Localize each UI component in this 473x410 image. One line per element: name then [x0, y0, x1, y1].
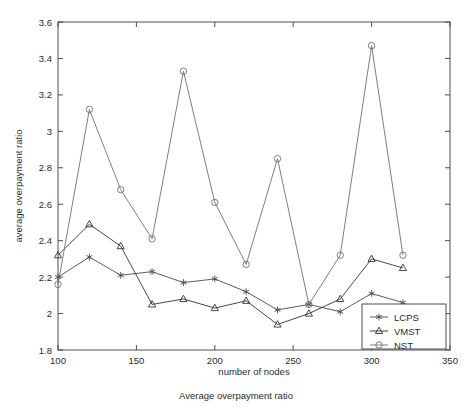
x-tick-label: 150 — [128, 355, 144, 366]
x-axis-title: number of nodes — [218, 366, 290, 377]
legend-label-nst: NST — [394, 340, 413, 351]
y-tick-label: 2.2 — [39, 272, 52, 283]
legend-label-vmst: VMST — [394, 326, 421, 337]
x-tick-label: 300 — [364, 355, 380, 366]
legend-label-lcps: LCPS — [394, 312, 419, 323]
y-tick-label: 2.8 — [39, 162, 52, 173]
y-tick-label: 3.6 — [39, 17, 52, 28]
x-tick-label: 200 — [207, 355, 223, 366]
y-tick-label: 2.6 — [39, 199, 52, 210]
y-tick-label: 1.8 — [39, 345, 52, 356]
x-tick-label: 250 — [285, 355, 301, 366]
y-tick-label: 3.4 — [39, 53, 52, 64]
x-tick-label: 350 — [442, 355, 458, 366]
y-tick-label: 3 — [47, 126, 52, 137]
legend[interactable]: LCPSVMSTNST — [362, 304, 446, 351]
y-tick-label: 3.2 — [39, 89, 52, 100]
figure-caption: Average overpayment ratio — [179, 390, 293, 401]
y-axis-title: average overpayment ratio — [13, 129, 24, 242]
y-tick-label: 2.4 — [39, 235, 52, 246]
legend-entries[interactable]: LCPSVMSTNST — [370, 312, 421, 351]
x-tick-label: 100 — [50, 355, 66, 366]
chart-figure: 100150200250300350 1.822.22.42.62.833.23… — [0, 0, 473, 410]
y-tick-label: 2 — [47, 308, 52, 319]
